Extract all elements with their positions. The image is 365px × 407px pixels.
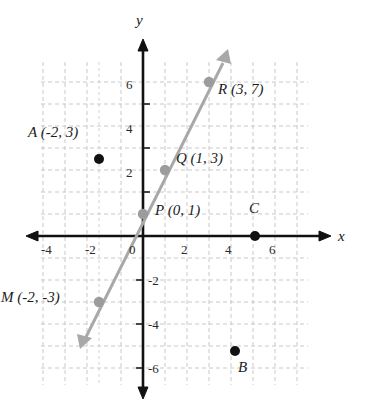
x-tick-2: 2 [181, 243, 188, 256]
point-label-B: B [238, 360, 247, 375]
y-axis-arrow-up [138, 39, 148, 51]
x-axis-label: x [338, 229, 345, 244]
axes [26, 39, 331, 399]
x-tick--2: -2 [85, 243, 96, 256]
y-axis-label: y [136, 13, 143, 28]
y-tick-2: 2 [126, 166, 133, 179]
point-label-M: M (-2, -3) [1, 290, 60, 305]
x-tick-0: 0 [129, 243, 136, 256]
y-axis-arrow-down [138, 387, 148, 399]
point-A-marker [94, 154, 104, 164]
y-tick--6: -6 [148, 362, 159, 375]
y-tick--2: -2 [148, 274, 159, 287]
point-label-Q: Q (1, 3) [176, 151, 223, 166]
point-label-C: C [249, 201, 259, 216]
point-P-marker [138, 209, 148, 219]
y-tick-6: 6 [126, 78, 133, 91]
point-M-marker [94, 297, 104, 307]
point-label-P: P (0, 1) [155, 203, 200, 218]
point-R-marker [204, 77, 214, 87]
x-tick--4: -4 [41, 243, 52, 256]
point-label-A: A (-2, 3) [28, 125, 78, 140]
point-label-R: R (3, 7) [218, 82, 263, 97]
x-axis-arrow-left [26, 231, 38, 241]
point-Q-marker [160, 165, 170, 175]
line-arrow-upper [216, 49, 231, 64]
point-C-marker [250, 231, 260, 241]
plotted-points [94, 154, 260, 356]
x-axis-arrow-right [319, 231, 331, 241]
y-tick-4: 4 [126, 122, 133, 135]
x-tick-4: 4 [225, 243, 232, 256]
y-tick--4: -4 [148, 318, 159, 331]
x-tick-6: 6 [269, 243, 276, 256]
point-B-marker [230, 346, 240, 356]
coordinate-plane-figure: x y -4 -2 0 2 4 6 6 4 2 -2 -4 -6 R (3, 7… [0, 0, 365, 407]
line-arrow-lower [77, 334, 92, 349]
